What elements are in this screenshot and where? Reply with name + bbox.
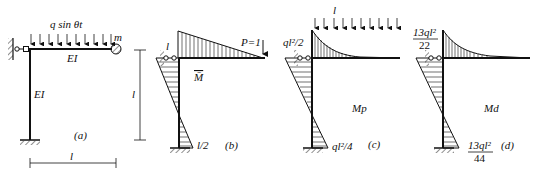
- load-label: l: [333, 4, 336, 16]
- fixed-support-icon: [303, 149, 323, 153]
- bottom-value-numerator: 13ql²: [468, 139, 492, 151]
- top-value-label: l: [166, 40, 169, 52]
- hinge-icon: [15, 47, 19, 51]
- panel-caption: (c): [368, 138, 381, 151]
- diagram-label: Mp: [351, 102, 367, 114]
- diagram-label: M̄: [193, 71, 204, 83]
- column-moment-lower: [179, 115, 193, 148]
- hinge-icon: [298, 56, 302, 60]
- beam-stiffness-label: EI: [66, 52, 79, 64]
- column-moment-upper: [416, 58, 443, 115]
- top-value-label: ql²/2: [283, 36, 304, 48]
- column-moment-lower: [312, 115, 328, 148]
- panel-caption: (a): [74, 129, 87, 142]
- bottom-value-denominator: 44: [474, 152, 486, 164]
- panel-caption: (b): [225, 139, 238, 152]
- hinge-icon: [429, 56, 433, 60]
- panel-a: q sin θt m EI EI (a) l: [8, 18, 122, 168]
- unit-load-label: P=1: [240, 36, 261, 48]
- mass-label: m: [114, 31, 122, 43]
- height-label: l: [132, 88, 135, 100]
- structural-figure: q sin θt m EI EI (a) l l: [0, 0, 539, 179]
- column-moment-upper: [156, 58, 179, 115]
- distributed-load-arrows: [315, 18, 397, 28]
- fixed-support-icon: [20, 141, 40, 145]
- bottom-value-label: l/2: [197, 139, 209, 151]
- hinge-icon: [172, 56, 176, 60]
- diagram-label: Md: [483, 102, 499, 114]
- column-moment-lower: [443, 115, 459, 148]
- span-label: l: [70, 150, 73, 162]
- hinge-icon: [437, 56, 441, 60]
- panel-caption: (d): [501, 139, 514, 152]
- wall-hatch: [8, 38, 13, 60]
- bottom-value-label: ql²/4: [332, 140, 353, 152]
- distributed-load-arrows: [31, 34, 111, 44]
- top-value-denominator: 22: [419, 39, 430, 51]
- hinge-icon: [164, 56, 168, 60]
- column-moment-upper: [285, 58, 312, 115]
- mass-icon: [111, 44, 121, 54]
- panel-c: l ql²/: [283, 4, 400, 153]
- hinge-icon: [306, 56, 310, 60]
- panel-b: l: [132, 31, 265, 153]
- fixed-support-icon: [170, 149, 190, 153]
- beam-moment-diagram: [312, 30, 400, 58]
- column-stiffness-label: EI: [33, 88, 46, 100]
- top-value-numerator: 13ql²: [413, 26, 437, 38]
- beam-moment-diagram: [443, 30, 530, 58]
- roller-joint-icon: [24, 47, 29, 52]
- load-label: q sin θt: [50, 18, 83, 30]
- panel-d: 13ql² 22 Md 13ql² 44 (d): [413, 26, 530, 164]
- fixed-support-icon: [434, 149, 454, 153]
